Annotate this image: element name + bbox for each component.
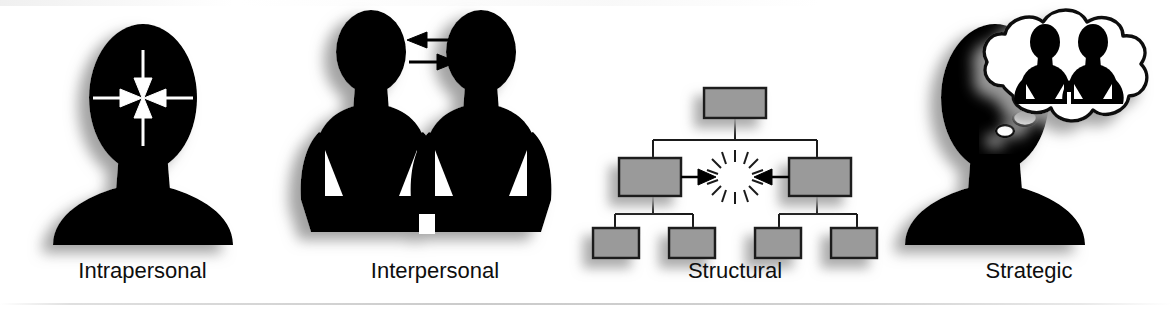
panel-intrapersonal: Intrapersonal <box>0 0 285 317</box>
panel-interpersonal: Interpersonal <box>285 0 585 317</box>
org-chart-boxes <box>593 88 877 258</box>
conflict-arrows-icon <box>681 169 789 185</box>
panel-label-strategic: Strategic <box>885 258 1173 284</box>
panel-label-intrapersonal: Intrapersonal <box>0 258 285 284</box>
intrapersonal-illustration <box>0 0 285 260</box>
org-box-leaf-4 <box>831 228 877 258</box>
org-box-leaf-3 <box>755 228 801 258</box>
org-box-leaf-1 <box>593 228 639 258</box>
thought-bubble-small-1 <box>996 125 1014 137</box>
panel-strategic: Strategic <box>885 0 1173 317</box>
figure-canvas: Intrapersonal <box>0 0 1173 317</box>
panel-structural: Structural <box>585 0 885 317</box>
interpersonal-illustration <box>285 0 585 260</box>
org-box-root <box>704 88 766 118</box>
org-box-mid-right <box>789 158 851 196</box>
strategic-illustration <box>885 0 1173 260</box>
org-box-leaf-2 <box>669 228 715 258</box>
scan-rule-bottom <box>0 303 1173 305</box>
panel-label-structural: Structural <box>585 258 885 284</box>
person-silhouette-right <box>411 10 552 232</box>
org-box-mid-left <box>619 158 681 196</box>
structural-illustration <box>585 0 885 260</box>
panel-label-interpersonal: Interpersonal <box>285 258 585 284</box>
